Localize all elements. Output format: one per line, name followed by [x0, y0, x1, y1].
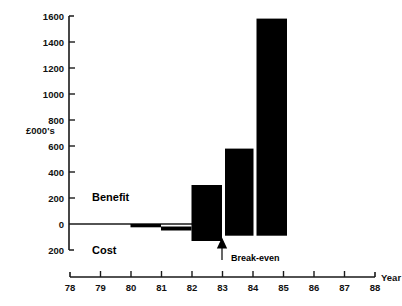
y-tick-label-neg200: 200 [48, 245, 64, 256]
x-tick-label-83: 83 [217, 282, 228, 293]
benefit-region-label: Benefit [92, 191, 130, 203]
x-tick-label-87: 87 [339, 282, 350, 293]
table-row [225, 149, 254, 236]
cost-region-label: Cost [92, 244, 117, 256]
y-tick-label-200: 200 [48, 193, 64, 204]
x-tick-label-80: 80 [126, 282, 137, 293]
break-even-label: Break-even [231, 253, 280, 263]
x-axis-ticks [101, 271, 345, 277]
y-tick-label-1400: 1400 [43, 37, 64, 48]
x-tick-label-79: 79 [95, 282, 106, 293]
y-axis-line [69, 16, 74, 250]
table-row [131, 224, 162, 227]
x-tick-label-86: 86 [309, 282, 320, 293]
y-tick-label-0: 0 [59, 219, 64, 230]
x-tick-label-84: 84 [248, 282, 259, 293]
y-axis-title: £000's [26, 125, 55, 136]
y-tick-label-600: 600 [48, 141, 64, 152]
y-tick-label-1000: 1000 [43, 89, 64, 100]
chart-canvas: 1600 1400 1200 1000 800 600 400 200 0 20… [0, 0, 402, 306]
x-tick-label-78: 78 [65, 282, 76, 293]
bars-group [131, 19, 288, 241]
table-row [257, 19, 288, 236]
x-tick-label-85: 85 [278, 282, 289, 293]
x-axis-title: Year [381, 272, 401, 283]
x-tick-label-81: 81 [156, 282, 167, 293]
break-even-marker: Break-even [218, 239, 280, 263]
y-tick-label-1600: 1600 [43, 11, 64, 22]
x-tick-label-82: 82 [187, 282, 198, 293]
y-axis-ticks [69, 42, 75, 198]
x-axis-tick-labels: 78 79 80 81 82 83 84 85 86 87 88 [65, 282, 381, 293]
y-tick-label-800: 800 [48, 115, 64, 126]
x-tick-label-88: 88 [370, 282, 381, 293]
x-axis: 78 79 80 81 82 83 84 85 86 87 88 Year [65, 271, 402, 293]
table-row [161, 227, 192, 231]
y-tick-label-400: 400 [48, 167, 64, 178]
y-axis: 1600 1400 1200 1000 800 600 400 200 0 20… [26, 11, 75, 256]
benefit-cost-bar-chart: 1600 1400 1200 1000 800 600 400 200 0 20… [0, 0, 402, 306]
y-tick-label-1200: 1200 [43, 63, 64, 74]
table-row [192, 185, 223, 241]
